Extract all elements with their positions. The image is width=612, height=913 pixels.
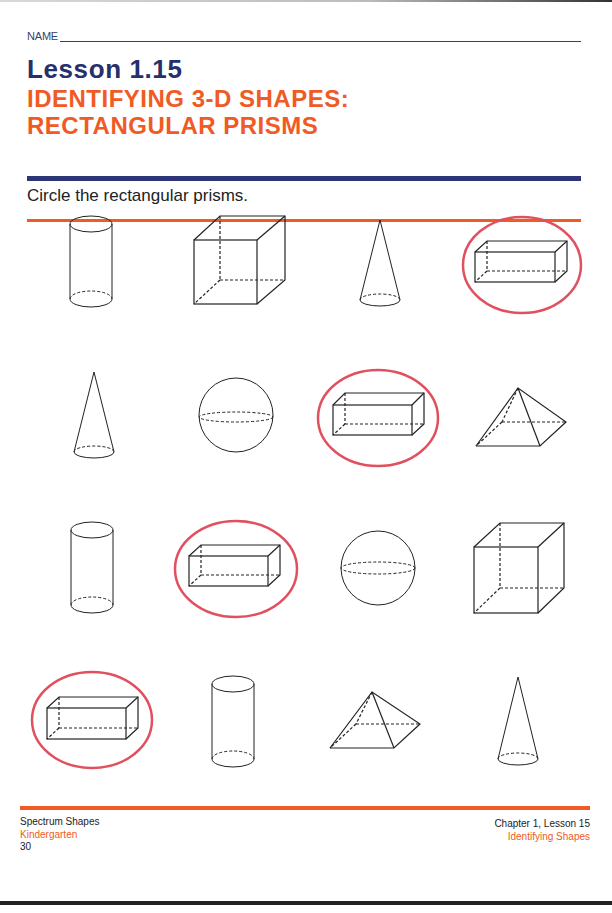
footer-right: Chapter 1, Lesson 15 Identifying Shapes: [494, 818, 590, 843]
rectangular-prism-icon: [461, 215, 585, 315]
shape-sphere[interactable]: [196, 375, 276, 459]
rectangular-prism-icon: [30, 670, 156, 770]
rectangular-prism-icon: [173, 519, 299, 619]
book-title: Spectrum Shapes: [20, 816, 100, 829]
sphere-icon: [196, 375, 276, 455]
chapter-lesson: Chapter 1, Lesson 15: [494, 818, 590, 831]
square-pyramid-icon: [474, 386, 570, 452]
shape-cone[interactable]: [72, 370, 116, 466]
shape-rectangular-prism-circled[interactable]: [316, 368, 442, 476]
shape-rectangular-prism-circled[interactable]: [173, 519, 299, 623]
cone-icon: [496, 675, 540, 769]
page-number: 30: [20, 841, 100, 854]
shape-sphere[interactable]: [338, 528, 418, 612]
shapes-grid: [0, 0, 612, 913]
shape-cone[interactable]: [358, 218, 402, 314]
shape-cube[interactable]: [192, 214, 292, 318]
topic: Identifying Shapes: [494, 831, 590, 844]
shape-rectangular-prism-circled[interactable]: [461, 215, 585, 319]
sphere-icon: [338, 528, 418, 608]
answer-circle: [318, 370, 438, 466]
shape-square-pyramid[interactable]: [328, 690, 424, 760]
shape-cylinder[interactable]: [68, 212, 118, 316]
shape-cube[interactable]: [472, 521, 572, 621]
cube-icon: [472, 521, 572, 617]
rectangular-prism-icon: [316, 368, 442, 472]
shape-cone[interactable]: [496, 675, 540, 773]
cylinder-icon: [210, 672, 260, 772]
answer-circle: [32, 672, 152, 768]
shape-cylinder[interactable]: [210, 672, 260, 776]
square-pyramid-icon: [328, 690, 424, 756]
footer-left: Spectrum Shapes Kindergarten 30: [20, 816, 100, 854]
cone-icon: [72, 370, 116, 462]
grade-level: Kindergarten: [20, 829, 100, 842]
answer-circle: [175, 521, 297, 617]
shape-cylinder[interactable]: [69, 518, 119, 622]
footer-divider: [20, 806, 590, 810]
cylinder-icon: [68, 212, 118, 312]
cone-icon: [358, 218, 402, 310]
shape-square-pyramid[interactable]: [474, 386, 570, 456]
shape-rectangular-prism-circled[interactable]: [30, 670, 156, 774]
page-bottom-edge: [0, 901, 612, 905]
cylinder-icon: [69, 518, 119, 618]
answer-circle: [463, 217, 581, 313]
cube-icon: [192, 214, 292, 314]
